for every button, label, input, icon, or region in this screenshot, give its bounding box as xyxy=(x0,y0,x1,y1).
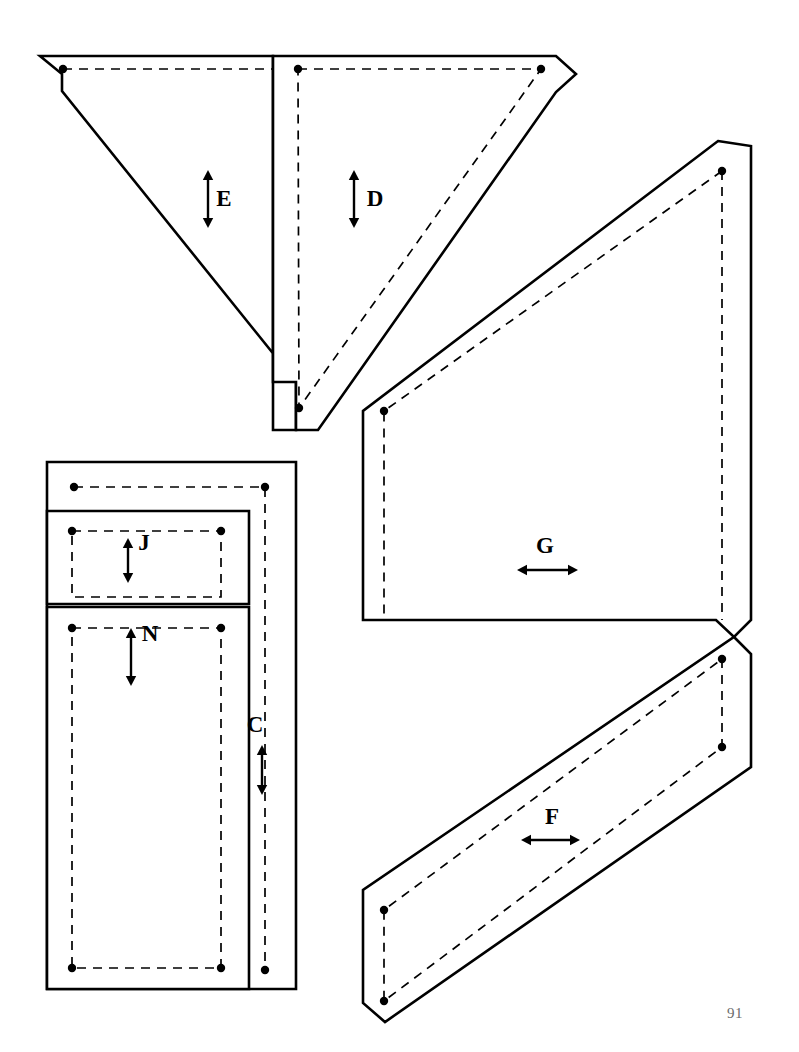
cut-line-f xyxy=(363,637,751,1022)
seam-dot-f-1 xyxy=(718,743,726,751)
cut-line-j xyxy=(47,511,249,604)
seam-dot-e-0 xyxy=(59,65,67,73)
seam-dot-n-3 xyxy=(68,964,76,972)
seam-dot-n-2 xyxy=(217,964,225,972)
piece-label-g: G xyxy=(536,533,554,558)
seam-dot-f-2 xyxy=(380,997,388,1005)
piece-label-d: D xyxy=(367,186,384,211)
seam-dot-g-1 xyxy=(380,407,388,415)
piece-label-e: E xyxy=(216,186,231,211)
seam-dot-c-1 xyxy=(261,483,269,491)
seam-dot-d-0 xyxy=(294,65,302,73)
page-number: 91 xyxy=(727,1005,743,1021)
pattern-diagram: EDCJNGF 91 xyxy=(0,0,799,1052)
piece-label-n: N xyxy=(142,621,159,646)
seam-dot-g-0 xyxy=(718,167,726,175)
cut-line-e xyxy=(40,56,296,430)
seam-dot-d-2 xyxy=(295,404,303,412)
pattern-piece-f xyxy=(363,637,751,1022)
cut-line-n xyxy=(47,607,249,989)
seam-dot-f-0 xyxy=(718,655,726,663)
seam-dot-c-2 xyxy=(261,966,269,974)
piece-label-j: J xyxy=(138,530,150,555)
piece-label-f: F xyxy=(545,804,559,829)
pattern-piece-j xyxy=(47,511,249,604)
seam-dot-f-3 xyxy=(380,906,388,914)
pattern-piece-e xyxy=(40,56,296,430)
seam-dot-d-1 xyxy=(537,65,545,73)
seam-dot-j-1 xyxy=(217,527,225,535)
pattern-sheet: EDCJNGF 91 xyxy=(0,0,799,1052)
seam-dot-j-0 xyxy=(68,527,76,535)
piece-label-c: C xyxy=(247,712,264,737)
seam-dot-n-0 xyxy=(68,624,76,632)
pattern-piece-n xyxy=(47,607,249,989)
seam-dot-c-0 xyxy=(70,483,78,491)
seam-dot-n-1 xyxy=(217,624,225,632)
